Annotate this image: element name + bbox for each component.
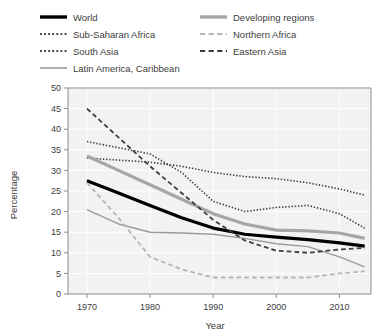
y-axis-tick-label: 5 (56, 269, 61, 279)
y-axis-tick-label: 40 (51, 124, 61, 134)
x-axis-tick-label: 1970 (77, 302, 97, 312)
x-axis-tick-label: 1980 (140, 302, 160, 312)
legend-label: Sub-Saharan Africa (73, 29, 156, 40)
x-axis-tick-label: 2000 (266, 302, 286, 312)
legend-label: Eastern Asia (233, 46, 287, 57)
chart-container: WorldDeveloping regionsSub-Saharan Afric… (0, 0, 383, 336)
legend-label: South Asia (73, 46, 119, 57)
x-axis-tick-label: 1990 (203, 302, 223, 312)
y-axis-tick-label: 50 (51, 83, 61, 93)
legend-label: Latin America, Caribbean (73, 63, 180, 74)
legend-label: Developing regions (233, 12, 315, 23)
legend-label: World (73, 12, 98, 23)
y-axis-tick-label: 30 (51, 166, 61, 176)
legend-label: Northern Africa (233, 29, 297, 40)
y-axis-tick-label: 45 (51, 104, 61, 114)
y-axis-tick-label: 15 (51, 227, 61, 237)
y-axis-tick-label: 10 (51, 248, 61, 258)
y-axis-title: Percentage (8, 171, 19, 220)
y-axis-tick-label: 25 (51, 186, 61, 196)
y-axis-tick-label: 20 (51, 207, 61, 217)
y-axis-tick-label: 0 (56, 289, 61, 299)
percentage-by-year-line-chart: WorldDeveloping regionsSub-Saharan Afric… (0, 0, 383, 336)
x-axis-title: Year (205, 320, 224, 331)
x-axis-tick-label: 2010 (329, 302, 349, 312)
y-axis-tick-label: 35 (51, 145, 61, 155)
